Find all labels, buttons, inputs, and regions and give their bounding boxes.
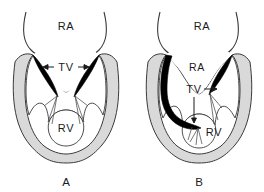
panel-a: RA TV RV A (0, 0, 132, 192)
right-atrium-outline-b (158, 12, 180, 54)
panel-letter-b: B (195, 176, 203, 188)
panel-letter-a: A (62, 176, 70, 188)
label-right-ventricle-b: RV (206, 126, 222, 138)
label-right-atrium-b: RA (194, 20, 211, 32)
panel-a-diagram: RA TV RV A (0, 0, 132, 192)
label-right-ventricle-a: RV (58, 122, 74, 134)
label-tricuspid-valve-b: TV (186, 83, 201, 95)
label-tricuspid-valve-a: TV (58, 61, 73, 73)
label-atrialized-chamber-b: RA (189, 61, 205, 73)
figure-container: RA TV RV A (0, 0, 264, 192)
label-right-atrium-a: RA (58, 20, 75, 32)
panel-b: RA RA TV RV B (132, 0, 264, 192)
panel-b-diagram: RA RA TV RV B (132, 0, 264, 192)
